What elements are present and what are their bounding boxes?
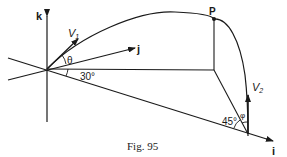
theta-label: θ (67, 55, 73, 66)
horizontal-projection-line (47, 69, 214, 70)
point-p-label: P (209, 6, 216, 17)
trajectory-diagram: k j i V1 V2 P θ 30° 45° φ Fig. 95 (0, 0, 287, 157)
angle-30-arc (66, 69, 68, 76)
j-axis-label: j (136, 43, 140, 55)
phi-arc (242, 122, 248, 123)
angle-45-label: 45° (222, 116, 237, 127)
phi-label: φ (240, 111, 245, 120)
i-axis-label: i (272, 145, 275, 157)
k-axis-label: k (36, 10, 43, 22)
theta-arc (62, 55, 66, 64)
trajectory-curve (47, 12, 248, 136)
figure-caption: Fig. 95 (127, 140, 159, 152)
v2-label: V2 (252, 81, 263, 94)
angle-30-label: 30° (80, 71, 95, 82)
v1-label: V1 (68, 27, 79, 40)
